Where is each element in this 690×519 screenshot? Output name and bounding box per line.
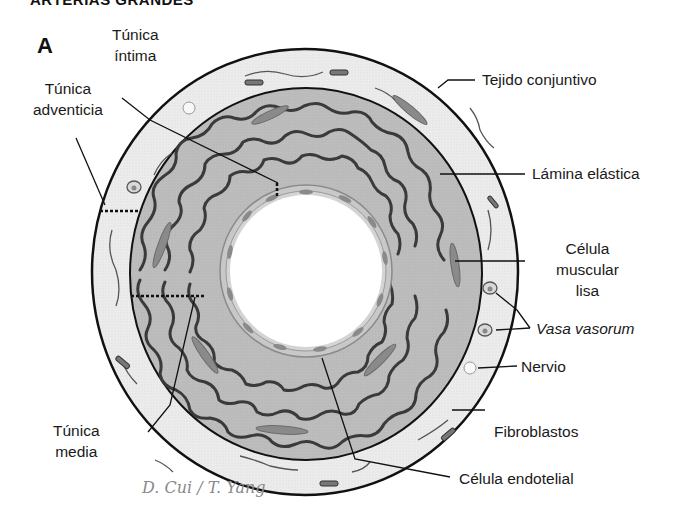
label-tejido-conjuntivo: Tejido conjuntivo <box>482 69 597 90</box>
label-vasa-vasorum: Vasa vasorum <box>536 318 635 339</box>
author-signature: D. Cui / T. Yang <box>142 478 266 497</box>
label-line: lisa <box>556 280 619 301</box>
label-line: Túnica <box>53 420 100 441</box>
label-line: media <box>53 441 100 462</box>
label-nervio: Nervio <box>521 356 566 377</box>
label-line: muscular <box>556 259 619 280</box>
label-line: íntima <box>112 45 159 66</box>
vessel-lumen <box>230 195 382 347</box>
label-line: Túnica <box>112 24 159 45</box>
label-tunica-adventicia: Túnica adventicia <box>33 78 103 120</box>
label-line: adventicia <box>33 99 103 120</box>
label-tunica-media: Túnica media <box>53 420 100 462</box>
label-tunica-intima: Túnica íntima <box>112 24 159 66</box>
label-celula-endotelial: Célula endotelial <box>459 468 574 489</box>
label-fibroblastos: Fibroblastos <box>494 421 578 442</box>
label-line: Célula <box>556 238 619 259</box>
label-lamina-elastica: Lámina elástica <box>532 163 640 184</box>
label-line: Túnica <box>33 78 103 99</box>
label-celula-muscular-lisa: Célula muscular lisa <box>556 238 619 301</box>
